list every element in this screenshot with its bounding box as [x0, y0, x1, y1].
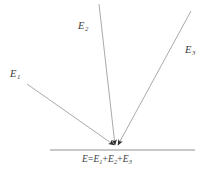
ray-line-e2 [99, 4, 115, 145]
ray-label-e1: E1 [10, 69, 20, 80]
ray-label-e3-subscript: 3 [192, 49, 196, 56]
ray-line-e1 [27, 84, 114, 145]
ray-label-e3: E3 [185, 45, 195, 56]
equation-term3-base: E [123, 154, 129, 164]
equation-term2-subscript: 2 [114, 158, 117, 165]
ray-label-e2: E2 [78, 21, 88, 32]
ray-label-e2-subscript: 2 [85, 25, 89, 32]
equation-term3-subscript: 3 [129, 158, 132, 165]
vector-diagram-figure: E1 E2 E3 E=E1+E2+E3 [0, 0, 214, 181]
ray-line-e3 [118, 11, 191, 145]
ray-label-e2-base: E [78, 20, 85, 31]
superposition-equation-caption: E=E1+E2+E3 [0, 155, 214, 165]
ray-label-e1-subscript: 1 [17, 73, 21, 80]
equation-term1-subscript: 1 [99, 158, 102, 165]
ray-label-e1-base: E [10, 68, 17, 79]
ray-label-e3-base: E [185, 44, 192, 55]
